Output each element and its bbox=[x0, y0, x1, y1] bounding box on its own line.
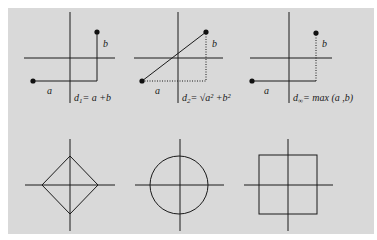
manhattan-path bbox=[33, 32, 97, 81]
label-b: b bbox=[103, 38, 108, 49]
chebyshev-panel bbox=[250, 12, 332, 103]
point-a bbox=[249, 78, 254, 83]
label-a: a bbox=[47, 85, 52, 96]
point-b bbox=[94, 29, 99, 34]
manhattan-panel bbox=[24, 12, 115, 103]
euclidean-panel bbox=[134, 12, 223, 103]
formula-d1: d1= a +b bbox=[74, 92, 111, 105]
formula-dinf: d∞= max (a ,b) bbox=[293, 92, 354, 105]
point-a bbox=[139, 78, 144, 83]
square-panel bbox=[244, 139, 333, 231]
point-a bbox=[30, 78, 35, 83]
formula-d2: d2= √a² +b² bbox=[182, 92, 231, 105]
euclidean-line bbox=[142, 32, 206, 81]
diagram-canvas: b a d1= a +b b a d2= √a² +b² b a d∞= max… bbox=[0, 0, 377, 240]
point-b bbox=[313, 30, 318, 35]
label-a: a bbox=[264, 85, 269, 96]
label-b: b bbox=[212, 38, 217, 49]
label-b: b bbox=[322, 38, 327, 49]
circle-panel bbox=[135, 139, 224, 231]
point-b bbox=[203, 29, 208, 34]
label-a: a bbox=[155, 85, 160, 96]
diamond-panel bbox=[25, 139, 115, 231]
